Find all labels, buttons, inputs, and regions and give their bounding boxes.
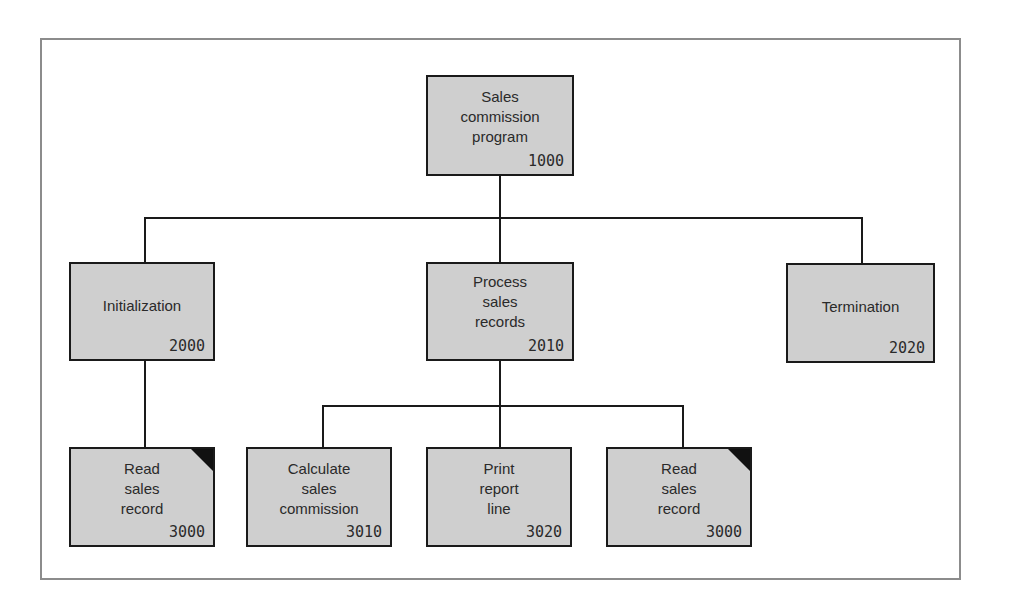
node-label: Read sales record xyxy=(71,459,213,519)
node-process-sales-records: Process sales records 2010 xyxy=(426,262,574,361)
node-code: 2010 xyxy=(528,337,564,355)
node-label: Process sales records xyxy=(428,272,572,332)
node-read-sales-record-1: Read sales record 3000 xyxy=(69,447,215,547)
node-print-report-line: Print report line 3020 xyxy=(426,447,572,547)
node-read-sales-record-2: Read sales record 3000 xyxy=(606,447,752,547)
connector-to-calc xyxy=(322,405,324,448)
connector-init-to-read1 xyxy=(144,360,146,448)
node-label: Calculate sales commission xyxy=(248,459,390,519)
node-code: 3020 xyxy=(526,523,562,541)
connector-root-down xyxy=(499,175,501,219)
node-label: Read sales record xyxy=(608,459,750,519)
node-code: 3010 xyxy=(346,523,382,541)
node-code: 2020 xyxy=(889,339,925,357)
node-termination: Termination 2020 xyxy=(786,263,935,363)
node-code: 3000 xyxy=(169,523,205,541)
connector-to-read2 xyxy=(682,405,684,448)
connector-to-process xyxy=(499,217,501,263)
connector-to-print xyxy=(499,405,501,448)
node-code: 1000 xyxy=(528,152,564,170)
node-label: Print report line xyxy=(428,459,570,519)
node-label: Sales commission program xyxy=(428,87,572,147)
node-calculate-sales-commission: Calculate sales commission 3010 xyxy=(246,447,392,547)
node-sales-commission-program: Sales commission program 1000 xyxy=(426,75,574,176)
node-code: 2000 xyxy=(169,337,205,355)
node-label: Initialization xyxy=(71,296,213,316)
connector-to-term xyxy=(861,217,863,264)
node-initialization: Initialization 2000 xyxy=(69,262,215,361)
connector-to-init xyxy=(144,217,146,263)
connector-level3-bar xyxy=(322,405,684,407)
node-label: Termination xyxy=(788,297,933,317)
node-code: 3000 xyxy=(706,523,742,541)
connector-process-down xyxy=(499,360,501,407)
connector-level2-bar xyxy=(144,217,863,219)
